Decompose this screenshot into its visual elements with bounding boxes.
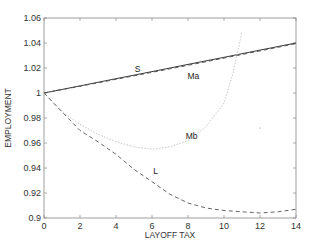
stray-marker [259, 127, 260, 128]
x-tick-label: 2 [77, 221, 82, 231]
y-tick-label: 0.94 [23, 163, 41, 173]
employment-layoff-tax-chart: 024681012140.90.920.940.960.9811.021.041… [0, 0, 315, 248]
y-tick-label: 0.98 [23, 113, 41, 123]
curve-label-ma: Ma [187, 71, 199, 81]
plot-area [44, 18, 296, 218]
y-tick-label: 0.92 [23, 188, 41, 198]
x-tick-label: 12 [255, 221, 265, 231]
y-tick-label: 1.06 [23, 13, 41, 23]
x-tick-label: 10 [219, 221, 229, 231]
y-tick-label: 0.9 [28, 213, 41, 223]
x-tick-label: 14 [291, 221, 301, 231]
y-tick-label: 1.02 [23, 63, 41, 73]
x-tick-label: 0 [41, 221, 46, 231]
y-tick-label: 1.04 [23, 38, 41, 48]
x-axis-label: LAYOFF TAX [145, 230, 196, 240]
y-axis-label: EMPLOYMENT [3, 88, 13, 148]
y-tick-label: 1 [36, 88, 41, 98]
curve-label-s: S [135, 64, 141, 74]
curve-label-mb: Mb [186, 131, 198, 141]
y-tick-label: 0.96 [23, 138, 41, 148]
x-tick-label: 4 [113, 221, 118, 231]
curve-label-l: L [153, 166, 158, 176]
